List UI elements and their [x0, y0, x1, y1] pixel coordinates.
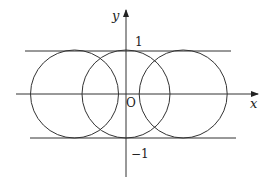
y-axis-label: y — [111, 8, 120, 23]
tick-label-minus-1: −1 — [131, 147, 149, 161]
tick-label-1: 1 — [135, 35, 143, 49]
origin-label: O — [126, 96, 136, 110]
x-axis-label: x — [250, 96, 258, 111]
diagram-canvas: y x O 1 −1 — [0, 0, 272, 188]
